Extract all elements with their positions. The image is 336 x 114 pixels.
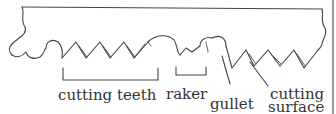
gullet-2: [212, 36, 226, 46]
saw-blade-diagram: cutting teeth raker gullet cutting surfa…: [0, 0, 336, 114]
blade-left-edge: [9, 7, 25, 55]
label-raker: raker: [166, 87, 207, 102]
blade-right-edge: [318, 9, 326, 50]
label-gullet: gullet: [210, 97, 254, 112]
left-raker: [12, 40, 62, 58]
label-cutting-teeth: cutting teeth: [58, 88, 156, 103]
cutting-surface-pointer: [250, 62, 268, 86]
raker-bracket: [176, 67, 206, 75]
label-cutting-surface-line2: surface: [268, 100, 324, 114]
cutting-teeth-bracket: [63, 68, 158, 80]
gullet-pointer: [222, 56, 230, 84]
blade-top-edge: [22, 7, 322, 9]
gullet-1: [148, 36, 180, 55]
cutting-teeth-group-1: [62, 42, 148, 58]
